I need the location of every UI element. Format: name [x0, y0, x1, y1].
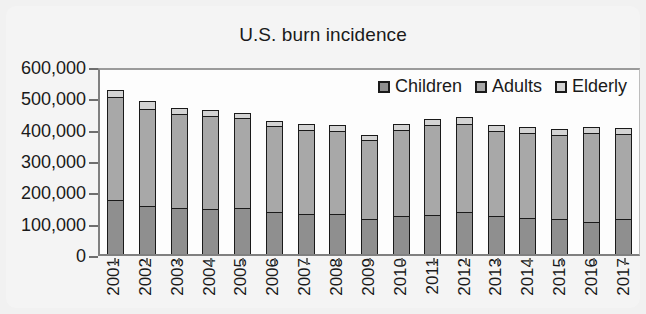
bar-segment-adults [520, 134, 535, 219]
x-axis-tick-mark [114, 258, 116, 265]
bar-2002 [139, 101, 156, 254]
y-axis-tick-label: 300,000 [0, 152, 86, 173]
bar-2007 [298, 124, 315, 254]
x-axis-tick-mark [146, 258, 148, 265]
bar-2009 [361, 135, 378, 254]
y-axis-tick-mark [89, 256, 98, 258]
bar-2008 [329, 125, 346, 254]
bar-2013 [488, 125, 505, 254]
y-axis-tick-label: 500,000 [0, 89, 86, 110]
bar-segment-adults [457, 125, 472, 213]
y-axis-labels: 600,000500,000400,000300,000200,000100,0… [0, 0, 86, 314]
y-axis-tick-mark [89, 99, 98, 101]
bar-segment-elderly [108, 91, 123, 98]
bar-segment-children [552, 220, 567, 254]
burn-incidence-chart-figure: U.S. burn incidence 600,000500,000400,00… [0, 0, 646, 314]
bar-segment-adults [584, 134, 599, 223]
bar-segment-children [520, 219, 535, 254]
bar-segment-adults [616, 135, 631, 220]
x-axis-labels: 2001200220032004200520062007200820092010… [98, 258, 640, 314]
y-axis-tick-mark [89, 68, 98, 70]
bar-segment-elderly [140, 102, 155, 110]
bar-segment-children [616, 220, 631, 254]
x-axis-tick-mark [242, 258, 244, 265]
bar-segment-children [489, 217, 504, 254]
x-axis-tick-mark [401, 258, 403, 265]
y-axis-tick-mark [89, 225, 98, 227]
x-axis-tick-mark [178, 258, 180, 265]
x-axis-tick-mark [529, 258, 531, 265]
x-axis-tick-mark [274, 258, 276, 265]
legend-label: Elderly [572, 76, 627, 97]
bar-segment-children [457, 213, 472, 254]
bar-segment-adults [394, 131, 409, 217]
chart-legend: ChildrenAdultsElderly [378, 76, 627, 97]
bar-2004 [202, 110, 219, 254]
bar-segment-children [330, 215, 345, 254]
bar-2012 [456, 117, 473, 254]
bar-segment-adults [172, 115, 187, 209]
legend-item-elderly: Elderly [555, 76, 627, 97]
chart-title: U.S. burn incidence [0, 24, 646, 46]
bar-2016 [583, 127, 600, 254]
y-axis-tick-mark [89, 131, 98, 133]
x-axis-tick-mark [210, 258, 212, 265]
bar-segment-children [172, 209, 187, 254]
bar-segment-adults [203, 117, 218, 210]
bar-segment-adults [299, 131, 314, 215]
bar-segment-adults [330, 132, 345, 215]
bar-group [100, 70, 639, 254]
y-axis-tick-label: 0 [0, 246, 86, 267]
y-axis-tick-mark [89, 193, 98, 195]
bar-segment-children [140, 207, 155, 254]
legend-label: Children [395, 76, 462, 97]
x-axis-tick-mark [497, 258, 499, 265]
x-axis-tick-mark [306, 258, 308, 265]
bar-segment-adults [552, 136, 567, 220]
bar-segment-elderly [425, 120, 440, 127]
bar-2005 [234, 113, 251, 254]
bar-segment-adults [425, 126, 440, 215]
bar-segment-adults [267, 127, 282, 213]
x-axis-tick-mark [338, 258, 340, 265]
bar-segment-elderly [457, 118, 472, 125]
y-axis-tick-label: 200,000 [0, 183, 86, 204]
bar-segment-children [425, 216, 440, 254]
x-axis-tick-mark [369, 258, 371, 265]
bar-2011 [424, 119, 441, 254]
bar-segment-adults [140, 110, 155, 207]
x-axis-tick-mark [624, 258, 626, 265]
bar-segment-children [584, 223, 599, 254]
legend-label: Adults [492, 76, 542, 97]
x-axis-tick-mark [561, 258, 563, 265]
bar-2001 [107, 90, 124, 254]
bar-segment-adults [235, 119, 250, 208]
bar-segment-children [235, 209, 250, 254]
children-swatch-icon [378, 81, 390, 93]
x-axis-tick-mark [433, 258, 435, 265]
y-axis-tick-label: 100,000 [0, 214, 86, 235]
bar-2006 [266, 121, 283, 255]
y-axis-tick-label: 600,000 [0, 58, 86, 79]
y-axis-tick-label: 400,000 [0, 120, 86, 141]
bar-segment-children [394, 217, 409, 254]
bar-segment-adults [108, 98, 123, 201]
bar-segment-children [203, 210, 218, 254]
bar-2003 [171, 108, 188, 254]
bar-2010 [393, 124, 410, 254]
bar-2014 [519, 127, 536, 254]
bar-segment-children [267, 213, 282, 254]
legend-item-adults: Adults [475, 76, 542, 97]
x-axis-tick-mark [465, 258, 467, 265]
legend-item-children: Children [378, 76, 462, 97]
bar-segment-adults [362, 141, 377, 219]
bar-segment-adults [489, 132, 504, 217]
adults-swatch-icon [475, 81, 487, 93]
bar-segment-children [299, 215, 314, 254]
elderly-swatch-icon [555, 81, 567, 93]
bar-2017 [615, 128, 632, 254]
y-axis-tick-mark [89, 162, 98, 164]
bar-segment-children [108, 201, 123, 254]
bar-2015 [551, 129, 568, 254]
bar-segment-children [362, 220, 377, 254]
